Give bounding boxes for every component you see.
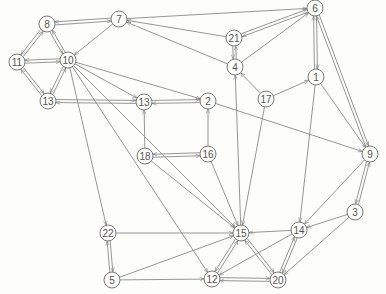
node-label: 10	[62, 55, 74, 66]
node-label: 22	[102, 228, 114, 239]
node-18: 18	[137, 148, 153, 164]
node-label: 7	[116, 14, 122, 25]
edge-6-to-21	[242, 12, 308, 36]
edge-18-to-13b	[144, 110, 145, 148]
edge-1-to-9	[321, 84, 366, 148]
edge-17-to-1	[273, 80, 308, 96]
node-10: 10	[60, 52, 76, 68]
edge-8-to-10	[50, 32, 63, 54]
edge-5-to-15	[120, 236, 234, 278]
edge-10-to-11	[25, 59, 60, 60]
node-6: 6	[307, 0, 323, 16]
node-label: 11	[12, 57, 23, 68]
edge-11-to-10	[25, 62, 60, 63]
edge-7-to-6	[127, 8, 307, 18]
edge-13b-to-2	[152, 100, 200, 101]
edge-12-to-15	[218, 241, 238, 273]
edge-13a-to-13b	[56, 100, 136, 101]
edge-3-to-9	[358, 162, 369, 205]
edge-13a-to-10	[53, 68, 66, 95]
node-label: 18	[139, 151, 151, 162]
edge-10-to-2	[76, 62, 201, 99]
edge-16-to-18	[153, 153, 200, 154]
node-9: 9	[362, 146, 378, 162]
edge-12-to-20	[220, 278, 270, 279]
edge-17-to-15	[242, 107, 264, 225]
edge-14-to-15	[249, 230, 291, 232]
edge-18-to-15	[151, 161, 235, 228]
node-label: 15	[235, 228, 247, 239]
edges-layer	[21, 8, 370, 281]
node-label: 6	[312, 3, 318, 14]
node-1: 1	[308, 69, 324, 85]
node-label: 12	[206, 274, 218, 285]
edge-18-to-16	[153, 156, 200, 157]
nodes-layer: 67821101141171313291816322151451220	[9, 0, 378, 288]
edge-20-to-15	[245, 240, 272, 274]
node-label: 2	[205, 96, 211, 107]
node-15: 15	[233, 225, 249, 241]
node-13b: 13	[136, 94, 152, 110]
node-label: 5	[109, 275, 115, 286]
node-label: 17	[260, 94, 272, 105]
edge-1-to-14	[300, 85, 315, 222]
edge-7-to-10	[74, 24, 113, 55]
edge-8-to-11	[21, 29, 41, 54]
node-label: 16	[202, 149, 214, 160]
node-4: 4	[227, 59, 243, 75]
node-label: 1	[313, 72, 319, 83]
edge-5-to-12	[120, 279, 204, 280]
node-label: 13	[42, 96, 54, 107]
node-label: 20	[272, 275, 284, 286]
edge-20-to-14	[280, 237, 295, 272]
edge-10-to-13a	[50, 67, 63, 94]
edge-15-to-4	[235, 75, 240, 225]
edge-4-to-6	[241, 13, 308, 63]
node-label: 8	[44, 19, 50, 30]
edge-5-to-22	[107, 241, 110, 272]
edge-10-to-22	[70, 68, 106, 225]
node-label: 14	[293, 225, 305, 236]
edge-13a-to-11	[21, 69, 42, 95]
edge-20-to-12	[220, 281, 270, 282]
node-20: 20	[270, 272, 286, 288]
edge-22-to-5	[110, 241, 113, 272]
node-5: 5	[104, 272, 120, 288]
edge-1-to-6	[314, 16, 315, 69]
edge-10-to-8	[52, 30, 65, 52]
graph-diagram: 67821101141171313291816322151451220	[0, 0, 386, 294]
edge-11-to-13a	[23, 67, 44, 93]
node-22: 22	[100, 225, 116, 241]
node-7: 7	[111, 11, 127, 27]
node-16: 16	[200, 146, 216, 162]
node-2: 2	[200, 93, 216, 109]
edge-15-to-12	[215, 239, 235, 271]
node-21: 21	[226, 30, 242, 46]
edge-14-to-20	[282, 238, 297, 273]
node-12: 12	[204, 271, 220, 287]
edge-6-to-9	[319, 15, 368, 146]
edge-15-to-20	[247, 238, 274, 272]
node-13a: 13	[40, 93, 56, 109]
node-11: 11	[9, 54, 25, 70]
edge-11-to-8	[23, 31, 43, 56]
edge-17-to-4	[241, 73, 261, 94]
node-14: 14	[291, 222, 307, 238]
node-label: 3	[352, 207, 358, 218]
edge-6-to-1	[317, 16, 318, 69]
edge-9-to-6	[316, 16, 365, 147]
node-label: 13	[138, 97, 150, 108]
node-8: 8	[39, 16, 55, 32]
node-3: 3	[347, 204, 363, 220]
edge-2-to-13b	[152, 103, 200, 104]
node-label: 4	[232, 62, 238, 73]
node-label: 21	[228, 33, 240, 44]
edge-3-to-14	[307, 214, 348, 227]
edge-10-to-13b	[75, 64, 137, 98]
node-17: 17	[258, 91, 274, 107]
node-label: 9	[367, 149, 373, 160]
